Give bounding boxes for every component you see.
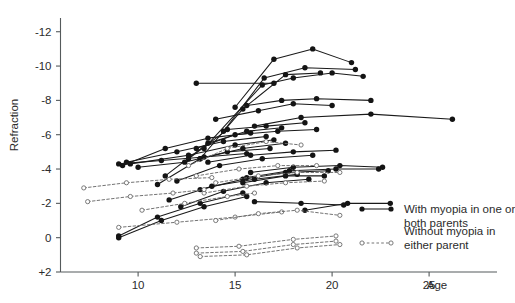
subject-trajectory [166,171,299,202]
data-point [124,181,128,185]
subject-trajectory [244,96,374,108]
data-point [194,251,198,255]
data-point [140,208,144,212]
data-point [291,101,296,106]
data-series [82,46,455,258]
data-point [314,163,318,167]
data-point [295,246,299,250]
chart-figure: -12-10-8-6-4-20+210152025AgeRefraction W… [0,0,515,303]
data-point [174,149,179,154]
data-point [252,123,257,128]
data-point [334,239,338,243]
data-point [183,201,187,205]
y-tick-label: -4 [41,163,52,175]
data-point [237,244,241,248]
data-point [310,153,315,158]
data-point [256,108,261,113]
data-point [360,74,365,79]
data-point [210,176,214,180]
data-point [225,146,229,150]
data-point [322,179,326,183]
data-point [279,98,284,103]
data-point [256,174,260,178]
data-point [295,170,299,174]
data-point [322,173,327,178]
data-point [198,254,202,258]
data-point [252,199,257,204]
data-point [116,161,121,166]
data-point [302,120,307,125]
subject-trajectory [82,176,214,191]
data-point [329,103,334,108]
x-tick-label: 20 [326,279,339,291]
subject-trajectory [194,234,338,250]
legend-marker-filled [359,206,364,211]
legend-entry-without-myopia: Without myopia ineither parent [360,225,496,251]
data-point [388,201,393,206]
legend-marker-open [389,241,393,245]
data-point [291,242,295,246]
legend-marker-open [360,241,364,245]
data-point [302,208,307,213]
data-point [213,117,218,122]
data-point [334,234,338,238]
data-point [167,177,171,181]
data-point [117,225,121,229]
data-point [333,147,338,152]
subject-trajectory [201,70,365,151]
y-tick-label: 0 [45,232,51,244]
data-point [450,117,455,122]
data-point [248,170,253,175]
data-point [260,156,265,161]
data-point [186,153,191,158]
data-point [329,70,334,75]
data-point [194,174,198,178]
data-point [291,237,295,241]
data-point [163,146,168,151]
data-point [159,218,164,223]
data-point [376,166,381,171]
data-point [245,184,249,188]
x-tick-label: 15 [229,279,242,291]
data-point [221,139,226,144]
data-point [264,139,268,143]
subject-trajectory [198,242,342,258]
data-point [298,115,303,120]
x-tick-label: 10 [132,279,145,291]
subject-trajectory [116,194,249,241]
legend-label-line2: either parent [404,239,469,251]
data-point [155,182,160,187]
data-point [283,181,287,185]
data-point [214,218,218,222]
data-point [244,194,249,199]
data-point [128,161,133,166]
y-tick-label: -2 [41,197,51,209]
data-point [338,170,342,174]
data-point [345,201,350,206]
y-tick-label: -12 [35,26,52,38]
subject-trajectory [86,188,207,204]
y-tick-label: -6 [41,129,51,141]
data-point [205,135,210,140]
data-point [202,188,206,192]
data-point [298,201,303,206]
data-point [349,60,354,65]
data-point [267,146,272,151]
data-point [225,194,229,198]
data-point [225,127,230,132]
data-point [353,67,358,72]
legend-label-line1: Without myopia in [404,225,495,237]
x-axis-title: Age [427,279,447,291]
subject-trajectory [214,208,342,222]
subject-trajectory [128,137,277,166]
data-point [291,149,296,154]
legend-marker-filled [388,206,393,211]
data-point [86,200,90,204]
series-without-myopia-parents [82,139,342,258]
data-point [302,65,307,70]
data-point [283,72,288,77]
data-point [248,130,253,135]
data-point [166,197,171,202]
data-point [128,194,132,198]
data-point [116,235,121,240]
